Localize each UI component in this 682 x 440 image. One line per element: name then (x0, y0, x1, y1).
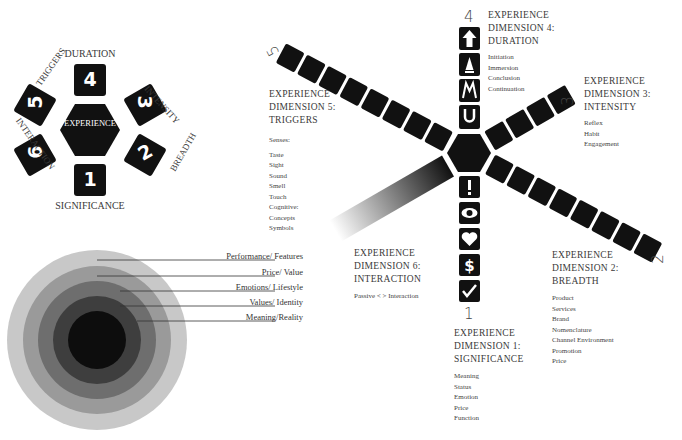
dimension-4-block: EXPERIENCE DIMENSION 4: DURATION Initiat… (488, 9, 555, 94)
dimension-6-block: EXPERIENCE DIMENSION 6: INTERACTION Pass… (354, 247, 421, 302)
dimension-1-block: EXPERIENCE DIMENSION 1: SIGNIFICANCE Mea… (454, 327, 524, 424)
ring-label-values: Values/ Identity (249, 297, 303, 307)
dimension-5-items: Taste Sight Sound Smell Touch Cognitive:… (269, 150, 336, 234)
tile-4-number: 4 (74, 68, 106, 90)
dimension-3-number: 3 (559, 96, 577, 106)
arm-4-icons (459, 27, 480, 129)
arm-2 (485, 155, 662, 263)
dimension-2-block: EXPERIENCE DIMENSION 2: BREADTH Product … (552, 249, 619, 367)
dimension-5-title: EXPERIENCE DIMENSION 5: TRIGGERS (269, 88, 336, 127)
svg-text:$: $ (464, 257, 474, 275)
hex-cluster-labels: EXPERIENCE 4 3 2 1 6 5 DURATION INTENSIT… (0, 0, 200, 230)
dimension-6-title: EXPERIENCE DIMENSION 6: INTERACTION (354, 247, 421, 286)
label-breadth: BREADTH (168, 131, 198, 173)
dimension-3-block: EXPERIENCE DIMENSION 3: INTENSITY Reflex… (584, 75, 651, 150)
ring-label-performance: Performance/ Features (226, 251, 303, 261)
dimension-2-number: 2 (649, 254, 667, 264)
dimension-2-items: Product Services Brand Nomenclature Chan… (552, 293, 619, 367)
tile-5-number: 5 (24, 86, 46, 118)
ring-label-meaning: Meaning/Reality (246, 312, 303, 322)
dimension-2-title: EXPERIENCE DIMENSION 2: BREADTH (552, 249, 619, 288)
arm-6-gradient (329, 156, 454, 242)
ring-label-emotions: Emotions/ Lifestyle (236, 282, 303, 292)
dimension-4-title: EXPERIENCE DIMENSION 4: DURATION (488, 9, 555, 48)
tile-2-number: 2 (126, 134, 165, 169)
dimension-4-number: 4 (464, 8, 474, 26)
label-significance: SIGNIFICANCE (40, 200, 140, 211)
tile-1-number: 1 (74, 168, 106, 190)
dimension-1-title: EXPERIENCE DIMENSION 1: SIGNIFICANCE (454, 327, 524, 366)
concentric-rings (7, 250, 275, 430)
ring-label-price: Price/ Value (262, 267, 303, 277)
arm-3 (484, 85, 576, 151)
dimension-1-number: 1 (464, 305, 474, 323)
dimension-1-items: Meaning Status Emotion Price Function (454, 371, 524, 424)
dimension-3-items: Reflex Habit Engagement (584, 118, 651, 150)
dimension-6-items: Passive < > Interaction (354, 291, 421, 302)
dimension-5-subhead: Senses: (269, 135, 336, 146)
arm-1-icons: $ (459, 176, 480, 302)
dimension-3-title: EXPERIENCE DIMENSION 3: INTENSITY (584, 75, 651, 114)
dimension-4-items: Initiation Immersion Conclusion Continua… (488, 52, 555, 94)
loop-icon (459, 105, 480, 129)
hex-center-label: EXPERIENCE (60, 118, 120, 128)
star-center-hexagon (447, 134, 491, 172)
dimension-5-block: EXPERIENCE DIMENSION 5: TRIGGERS Senses:… (269, 88, 336, 234)
